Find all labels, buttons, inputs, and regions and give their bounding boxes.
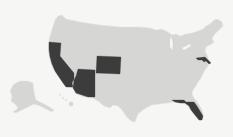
state-colorado[interactable] (96, 56, 121, 74)
hawaii-islet (65, 99, 67, 101)
hawaii-big-island (69, 102, 73, 106)
hawaii-islet (62, 97, 64, 99)
state-florida[interactable] (172, 100, 203, 120)
alaska (10, 81, 54, 113)
hawaii-islet (59, 94, 61, 96)
us-map (0, 0, 233, 137)
